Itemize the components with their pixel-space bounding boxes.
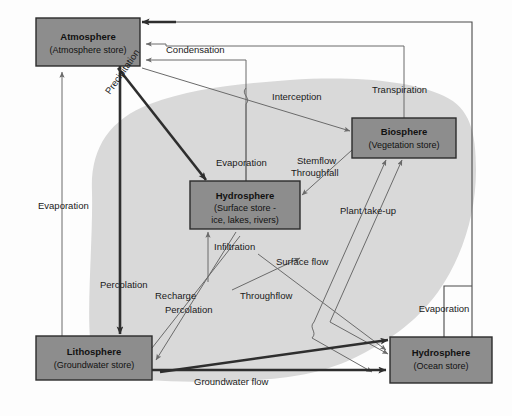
flow-label-throughflow: Throughflow: [240, 290, 292, 301]
store-lithosphere-title: Lithosphere: [67, 346, 121, 357]
store-biosphere[interactable]: Biosphere (Vegetation store): [352, 118, 456, 158]
store-atmosphere-title: Atmosphere: [60, 31, 115, 42]
store-hydrosphere-surface-subtitle-2: ice, lakes, rivers): [211, 215, 279, 225]
flow-label-percolation-2: Percolation: [165, 304, 213, 315]
flow-label-percolation-1: Percolation: [100, 279, 148, 290]
flow-label-transpiration: Transpiration: [372, 84, 427, 95]
flow-label-surface-flow: Surface flow: [276, 256, 328, 267]
flow-label-evaporation-surface: Evaporation: [216, 157, 267, 168]
store-biosphere-title: Biosphere: [381, 126, 427, 137]
flow-label-infiltration: Infiltration: [214, 241, 255, 252]
store-atmosphere-subtitle: (Atmosphere store): [49, 45, 126, 55]
flow-label-evaporation-ocean: Evaporation: [419, 303, 470, 314]
store-lithosphere-subtitle: (Groundwater store): [54, 360, 135, 370]
flow-label-plant-take-up: Plant take-up: [340, 205, 396, 216]
store-hydrosphere-ocean-subtitle: (Ocean store): [413, 361, 468, 371]
store-hydrosphere-surface[interactable]: Hydrosphere (Surface store - ice, lakes,…: [190, 181, 300, 229]
store-biosphere-subtitle: (Vegetation store): [368, 140, 439, 150]
store-lithosphere[interactable]: Lithosphere (Groundwater store): [36, 336, 152, 380]
flow-label-condensation: Condensation: [166, 44, 225, 55]
flow-label-recharge: Recharge: [155, 290, 196, 301]
diagram-canvas: Atmosphere (Atmosphere store) Hydrospher…: [0, 0, 512, 416]
hydrological-cycle-diagram: Atmosphere (Atmosphere store) Hydrospher…: [0, 0, 512, 416]
store-hydrosphere-ocean-title: Hydrosphere: [412, 347, 471, 358]
flow-label-evaporation-atmosphere: Evaporation: [38, 200, 89, 211]
store-hydrosphere-ocean[interactable]: Hydrosphere (Ocean store): [390, 337, 492, 383]
flow-label-throughfall: Throughfall: [291, 167, 339, 178]
store-hydrosphere-surface-title: Hydrosphere: [216, 190, 275, 201]
flow-label-interception: Interception: [272, 91, 322, 102]
flow-label-groundwater-flow: Groundwater flow: [194, 376, 269, 387]
flow-label-stemflow: Stemflow: [297, 155, 336, 166]
store-hydrosphere-surface-subtitle-1: (Surface store -: [214, 203, 276, 213]
